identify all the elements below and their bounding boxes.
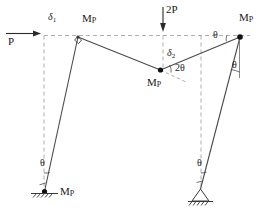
hinge-nodes	[42, 34, 243, 194]
left-column-member	[45, 37, 79, 192]
delta1-subscript: 1	[53, 16, 57, 24]
hinge-label-top-left: MP	[82, 13, 96, 24]
rotation-label-midspan: 2θ	[175, 63, 185, 73]
arc-theta-beam-right	[226, 36, 227, 42]
rotation-label-right-column-lower: θ	[197, 158, 202, 168]
hinge-left-joint-symbol: M	[82, 12, 92, 24]
rotation-angle-arcs	[40, 36, 240, 185]
hinge-label-left-base: MP	[60, 186, 74, 197]
hinge-right-joint-subscript: P	[249, 15, 253, 24]
load-label-2P: 2P	[166, 4, 178, 15]
hinge-left-base-symbol: M	[60, 185, 70, 197]
hinge-label-midspan: MP	[147, 77, 161, 88]
node-top-right-joint	[237, 34, 243, 40]
rotation-label-left-column: θ	[40, 158, 45, 168]
rotation-label-right-column-upper: θ	[232, 60, 237, 70]
hinge-label-top-right: MP	[239, 12, 253, 23]
delta2-symbol: δ	[167, 47, 172, 58]
beam-left-segment	[78, 37, 161, 70]
deformed-frame-members	[45, 37, 241, 192]
displacement-label-delta1: δ1	[48, 12, 56, 22]
node-midspan-hinge	[158, 67, 163, 72]
hinge-left-joint-subscript: P	[92, 16, 96, 25]
load-arrow-2P-head	[160, 23, 166, 32]
collapse-mechanism-figure: P 2P δ1 δ2 MP MP MP MP θ θ θ θ 2θ	[0, 0, 270, 213]
load-label-P: P	[8, 36, 14, 47]
hinge-midspan-symbol: M	[147, 76, 157, 88]
hinge-left-base-subscript: P	[70, 189, 74, 198]
delta2-subscript: 2	[172, 52, 176, 60]
displacement-label-delta2: δ2	[167, 48, 175, 58]
support-right-triangle	[192, 189, 209, 201]
arc-theta-right-lower	[201, 172, 207, 173]
tick-left-base-angle	[40, 183, 46, 185]
hinge-midspan-subscript: P	[157, 80, 161, 89]
support-left-fixed	[31, 194, 58, 198]
support-right-pinned	[188, 189, 213, 206]
hinge-right-joint-symbol: M	[239, 11, 249, 23]
delta1-symbol: δ	[48, 11, 53, 22]
frame-geometry-svg	[0, 0, 270, 213]
reference-dashed-lines	[44, 36, 250, 191]
rotation-label-beam-right: θ	[213, 30, 218, 40]
load-arrow-P-head	[33, 31, 41, 37]
